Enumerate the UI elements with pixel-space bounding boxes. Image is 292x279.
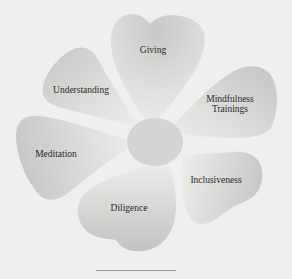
center-circle xyxy=(127,118,183,166)
label-mindfulness-trainings: Mindfulness Trainings xyxy=(206,94,254,114)
label-diligence: Diligence xyxy=(111,203,148,213)
label-giving: Giving xyxy=(140,45,166,55)
label-mindfulness-line2: Trainings xyxy=(206,104,254,114)
label-mindfulness-line1: Mindfulness xyxy=(206,94,254,104)
petal-inclusiveness xyxy=(181,152,262,224)
label-inclusiveness: Inclusiveness xyxy=(190,175,241,185)
label-understanding: Understanding xyxy=(53,85,109,95)
label-meditation: Meditation xyxy=(35,149,77,159)
horizontal-rule xyxy=(96,270,176,271)
flower-diagram xyxy=(0,0,292,279)
